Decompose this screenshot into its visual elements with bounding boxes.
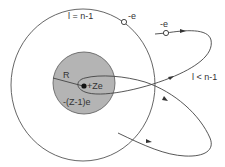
arrow-icon	[180, 29, 186, 33]
electron-outer-label: -e	[128, 12, 136, 21]
core-radius-label: R	[63, 71, 70, 80]
arrow-icon	[168, 76, 174, 80]
core-charge-label: -(Z-1)e	[63, 98, 91, 107]
penetrating-orbit-label: l < n-1	[192, 73, 217, 82]
electron-penetrating-orbit	[163, 30, 168, 35]
electron-outer-orbit	[121, 19, 126, 24]
arrow-icon	[162, 96, 168, 101]
electron-penetrating-label: -e	[160, 20, 168, 29]
atom-orbit-diagram	[0, 0, 225, 167]
nucleus-charge-label: +Ze	[87, 82, 103, 91]
nucleus	[81, 83, 86, 88]
outer-orbit-label: l = n-1	[68, 12, 93, 21]
arrow-icon	[146, 139, 152, 143]
